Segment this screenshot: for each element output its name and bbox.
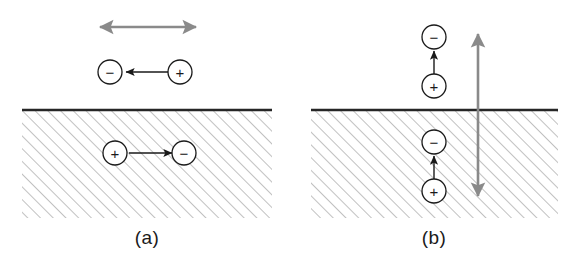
diagram-svg: − + + − <box>0 0 574 264</box>
panel-label-b: (b) <box>404 227 464 249</box>
charge-sign: + <box>176 64 185 81</box>
charge-sign: − <box>430 29 439 46</box>
panel-label-a: (a) <box>117 227 177 249</box>
panel-a: − + + − <box>22 27 272 218</box>
charge-plus-below: + <box>422 179 446 203</box>
charge-sign: + <box>430 78 439 95</box>
charge-minus-above: − <box>98 60 122 84</box>
figure-canvas: − + + − <box>0 0 574 264</box>
charge-plus-below: + <box>103 141 127 165</box>
panel-b: − + − + <box>311 25 558 218</box>
charge-minus-below: − <box>172 141 196 165</box>
charge-sign: + <box>430 183 439 200</box>
hatched-substrate-fill <box>22 110 272 218</box>
charge-plus-above: + <box>168 60 192 84</box>
charge-minus-below: − <box>422 130 446 154</box>
charge-plus-above: + <box>422 74 446 98</box>
panel-a-substrate <box>22 110 272 218</box>
charge-sign: − <box>430 134 439 151</box>
charge-sign: − <box>106 64 115 81</box>
charge-sign: + <box>111 145 120 162</box>
charge-minus-above: − <box>422 25 446 49</box>
charge-sign: − <box>180 145 189 162</box>
